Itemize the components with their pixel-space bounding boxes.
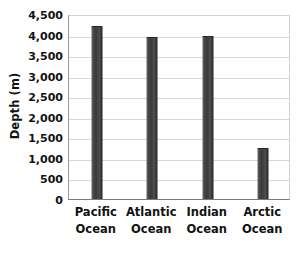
x-axis-category-label: IndianOcean — [179, 204, 235, 237]
category-label-line1: Arctic — [235, 204, 291, 221]
x-axis-category-labels: PacificOceanAtlanticOceanIndianOceanArct… — [68, 202, 290, 252]
bars-layer — [69, 16, 289, 199]
y-axis-tick-labels: 4,5004,0003,5003,0002,5002,0001,5001,000… — [22, 15, 66, 200]
bar-chart: Depth (m) 4,5004,0003,5003,0002,5002,000… — [0, 0, 301, 259]
category-label-line1: Atlantic — [124, 204, 180, 221]
bar-slot — [125, 16, 181, 199]
bar[interactable] — [258, 148, 269, 199]
y-axis-tick-label: 2,000 — [28, 112, 63, 123]
y-axis-tick-label: 4,000 — [28, 30, 63, 41]
bar-slot — [180, 16, 236, 199]
y-axis-tick-label: 0 — [55, 195, 63, 206]
bar-slot — [69, 16, 125, 199]
category-label-line2: Ocean — [235, 221, 291, 238]
x-axis-category-label: ArcticOcean — [235, 204, 291, 237]
category-label-line1: Pacific — [68, 204, 124, 221]
plot-area — [68, 15, 290, 200]
x-axis-category-label: AtlanticOcean — [124, 204, 180, 237]
y-axis-tick-label: 4,500 — [28, 10, 63, 21]
y-axis-tick-label: 3,500 — [28, 51, 63, 62]
category-label-line2: Ocean — [179, 221, 235, 238]
category-label-line2: Ocean — [68, 221, 124, 238]
y-axis-title-text: Depth (m) — [8, 73, 22, 140]
y-axis-tick-label: 2,500 — [28, 92, 63, 103]
y-axis-tick-label: 3,000 — [28, 71, 63, 82]
category-label-line2: Ocean — [124, 221, 180, 238]
bar-slot — [236, 16, 292, 199]
bar[interactable] — [91, 26, 102, 199]
category-label-line1: Indian — [179, 204, 235, 221]
y-axis-tick-label: 1,000 — [28, 153, 63, 164]
bar[interactable] — [147, 37, 158, 199]
y-axis-tick-label: 1,500 — [28, 133, 63, 144]
bar[interactable] — [202, 36, 213, 199]
x-axis-category-label: PacificOcean — [68, 204, 124, 237]
y-axis-tick-label: 500 — [40, 174, 63, 185]
